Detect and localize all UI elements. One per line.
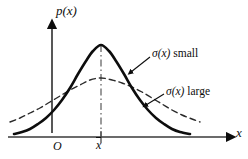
sigma-large-argument: (x)	[172, 85, 185, 97]
origin-label: O	[53, 140, 62, 152]
mean-tick-label: x	[96, 139, 101, 151]
x-bar-glyph: x	[96, 139, 101, 151]
sigma-large-qualifier: large	[184, 85, 210, 97]
sigma-large-label: σ(x) large	[166, 86, 210, 98]
sigma-small-qualifier: small	[170, 47, 198, 59]
x-axis-label: x	[236, 126, 242, 139]
overbar	[96, 137, 101, 138]
figure-canvas	[0, 0, 248, 159]
sigma-small-label: σ(x) small	[152, 48, 198, 60]
mean-tick-letter: x	[96, 138, 101, 152]
probability-density-figure: p(x) x O x σ(x) small σ(x) large	[0, 0, 248, 159]
sigma-small-argument: (x)	[158, 47, 171, 59]
y-axis-label: p(x)	[56, 4, 77, 17]
sigma-small-leader-line	[131, 57, 150, 72]
